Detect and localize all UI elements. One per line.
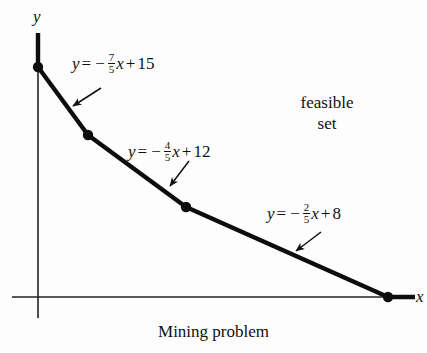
- equation-1-y: y: [72, 54, 80, 73]
- plot-canvas: [0, 0, 427, 353]
- equation-2-plus: +: [182, 142, 192, 161]
- equation-3-fraction: 25: [303, 202, 311, 225]
- mining-problem-figure: y x y=−75x+15 y=−45x+12 y=−25x+8 feasibl…: [0, 0, 427, 353]
- vertex-dot: [383, 292, 393, 302]
- equation-2-minus: −: [151, 142, 161, 161]
- equation-3-y: y: [267, 204, 275, 223]
- leader-arrow-line-3: [296, 232, 321, 251]
- equation-label-1: y=−75x+15: [72, 53, 154, 76]
- equation-2-equals: =: [138, 142, 148, 161]
- vertex-dot: [33, 62, 43, 72]
- equation-3-plus: +: [321, 204, 331, 223]
- feasible-set-annotation: feasible set: [268, 92, 386, 135]
- vertex-dot: [181, 202, 191, 212]
- equation-2-intercept: 12: [193, 142, 210, 161]
- equation-1-x: x: [116, 54, 124, 73]
- equation-2-y: y: [128, 142, 136, 161]
- equation-3-minus: −: [290, 204, 300, 223]
- leader-arrow-line-1: [73, 88, 101, 106]
- equation-2-fraction: 45: [164, 140, 172, 163]
- figure-caption: Mining problem: [0, 322, 427, 342]
- equation-3-denominator: 5: [303, 214, 311, 225]
- y-axis-label: y: [33, 7, 41, 27]
- equation-2-x: x: [172, 142, 180, 161]
- equation-1-plus: +: [126, 54, 136, 73]
- equation-1-fraction: 75: [108, 52, 116, 75]
- vertex-dot: [83, 130, 93, 140]
- equation-1-equals: =: [82, 54, 92, 73]
- x-axis-label: x: [416, 287, 424, 307]
- equation-1-denominator: 5: [108, 64, 116, 75]
- equation-2-denominator: 5: [164, 152, 172, 163]
- feasible-set-line-2: set: [268, 113, 386, 134]
- equation-label-2: y=−45x+12: [128, 141, 210, 164]
- equation-label-3: y=−25x+8: [267, 203, 341, 226]
- equation-3-intercept: 8: [332, 204, 341, 223]
- feasible-set-line-1: feasible: [268, 92, 386, 113]
- equation-3-equals: =: [277, 204, 287, 223]
- equation-3-x: x: [311, 204, 319, 223]
- equation-1-intercept: 15: [137, 54, 154, 73]
- leader-arrow-line-2: [170, 161, 189, 186]
- equation-1-minus: −: [95, 54, 105, 73]
